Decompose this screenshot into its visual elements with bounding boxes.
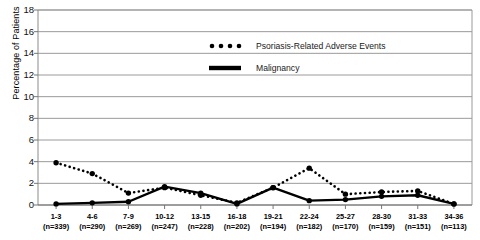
data-point bbox=[53, 201, 58, 206]
data-point bbox=[234, 201, 239, 206]
data-point bbox=[307, 198, 312, 203]
data-point bbox=[451, 201, 456, 206]
legend-marker-dotted bbox=[228, 44, 233, 49]
data-point bbox=[126, 190, 131, 195]
legend-label: Malignancy bbox=[256, 63, 300, 73]
plot-area: Psoriasis-Related Adverse EventsMalignan… bbox=[0, 0, 480, 240]
data-point bbox=[198, 190, 203, 195]
legend-marker-dotted bbox=[237, 44, 242, 49]
data-point bbox=[90, 200, 95, 205]
data-point bbox=[90, 171, 95, 176]
legend-label: Psoriasis-Related Adverse Events bbox=[256, 41, 385, 51]
data-point bbox=[379, 194, 384, 199]
data-point bbox=[162, 184, 167, 189]
chart-container: Percentage of Patients 181614121086420 P… bbox=[0, 0, 480, 240]
data-point bbox=[307, 165, 312, 170]
data-point bbox=[343, 191, 348, 196]
legend-marker-dotted bbox=[219, 44, 224, 49]
data-point bbox=[126, 199, 131, 204]
data-point bbox=[415, 193, 420, 198]
series-line-2 bbox=[56, 187, 454, 204]
legend-marker-dotted bbox=[210, 44, 215, 49]
data-point bbox=[270, 185, 275, 190]
data-point bbox=[53, 160, 58, 165]
data-point bbox=[343, 197, 348, 202]
